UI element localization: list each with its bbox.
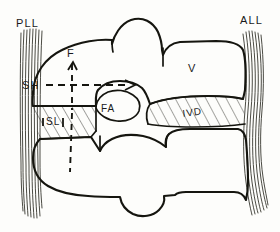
facet-articulation xyxy=(91,90,140,137)
label-all: ALL xyxy=(240,14,263,26)
spine-motion-segment-diagram: PLL ALL SH F V FA IVD SL xyxy=(0,0,280,232)
label-sl: SL xyxy=(46,116,60,127)
anterior-longitudinal-ligament-fibers xyxy=(243,31,268,215)
label-sh: SH xyxy=(22,79,40,91)
shear-arrowhead xyxy=(125,80,135,90)
label-v: V xyxy=(188,62,197,74)
label-f: F xyxy=(67,47,75,59)
upper-vertebra-outline xyxy=(33,19,246,106)
lower-vertebra-outline xyxy=(33,129,248,216)
label-pll: PLL xyxy=(16,17,39,29)
label-fa: FA xyxy=(101,103,115,114)
